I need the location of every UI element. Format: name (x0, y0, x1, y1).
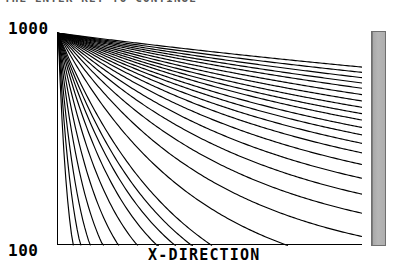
scrollbar-strip[interactable] (371, 31, 386, 246)
x-axis-title: X-DIRECTION (148, 247, 261, 263)
plot-window: THE ENTER KEY TO CONTINUE 1000 100 X-DIR… (0, 0, 397, 268)
console-prompt-line: THE ENTER KEY TO CONTINUE (4, 0, 304, 7)
curve-family-plot (57, 32, 362, 246)
y-axis-min-label: 100 (8, 243, 38, 259)
curve-path (58, 33, 362, 236)
y-axis-max-label: 1000 (8, 21, 49, 37)
curve-path (58, 33, 119, 245)
curve-path (58, 33, 288, 245)
console-prompt-text: THE ENTER KEY TO CONTINUE (4, 0, 304, 5)
curve-lines-group (58, 33, 362, 245)
curve-path (58, 33, 362, 67)
